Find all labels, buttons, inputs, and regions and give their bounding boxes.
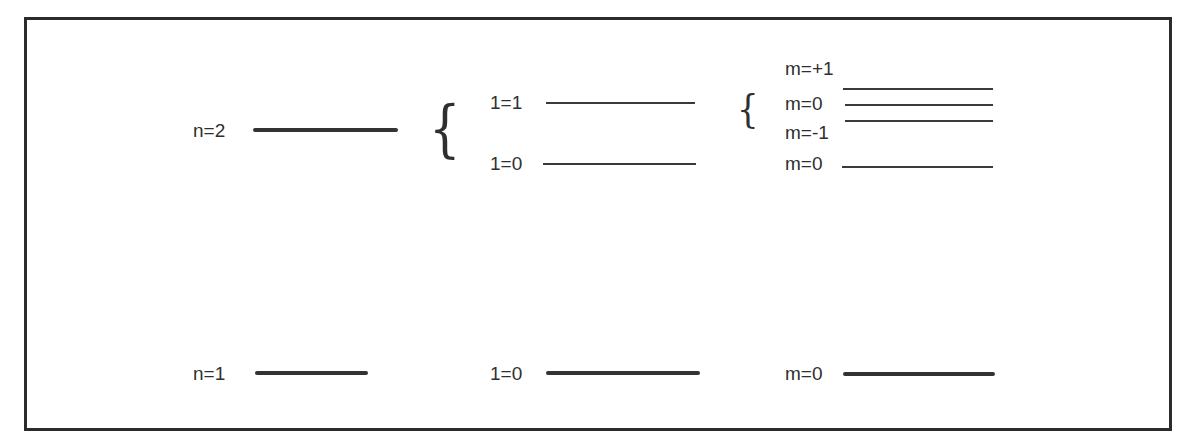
energy-level-m0-l1	[845, 104, 993, 106]
level-label-n1: n=1	[193, 364, 225, 384]
split-brace-n2: {	[429, 93, 461, 165]
energy-level-n1	[255, 371, 368, 375]
level-label-m0-l1: m=0	[785, 94, 823, 114]
level-label-m0-n1: m=0	[785, 364, 823, 384]
level-label-l1: 1=1	[490, 93, 522, 113]
energy-level-m0-n1	[843, 372, 995, 376]
level-label-m0-l0: m=0	[785, 154, 823, 174]
energy-level-m-minus1	[845, 120, 993, 122]
level-label-m-minus1: m=-1	[785, 123, 829, 143]
energy-level-n2	[253, 128, 398, 132]
energy-level-m-plus1	[843, 88, 993, 90]
energy-level-m0-l0	[842, 166, 993, 168]
level-label-l0-n1: 1=0	[490, 364, 522, 384]
level-label-l0-n2: 1=0	[490, 154, 522, 174]
energy-level-l0-n2	[543, 163, 696, 165]
level-label-n2: n=2	[193, 121, 225, 141]
split-brace-l1: {	[737, 84, 759, 132]
energy-level-l1	[546, 102, 695, 104]
level-label-m-plus1: m=+1	[785, 59, 834, 79]
energy-level-l0-n1	[546, 371, 700, 375]
